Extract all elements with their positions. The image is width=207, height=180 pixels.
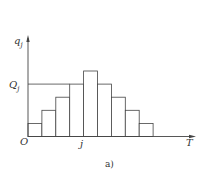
x-marker-label: j [78, 138, 83, 149]
histogram-bar [56, 97, 70, 136]
x-axis-label: T [186, 137, 194, 148]
histogram-bar [111, 97, 125, 136]
histogram-bar [70, 84, 84, 136]
histogram-chart: qj Qj O j T a) [0, 0, 207, 180]
y-axis-label: qj [14, 35, 23, 49]
qj-label: Qj [9, 79, 20, 93]
figure-caption: a) [105, 159, 114, 169]
histogram-bar [28, 123, 42, 136]
origin-label: O [20, 136, 28, 147]
histogram-bar [139, 123, 153, 136]
histogram-bar [125, 110, 139, 136]
histogram-bar [98, 84, 112, 136]
histogram-bar [42, 110, 56, 136]
bars [28, 71, 153, 137]
y-axis-arrow-icon [26, 35, 29, 42]
histogram-bar [84, 71, 98, 137]
